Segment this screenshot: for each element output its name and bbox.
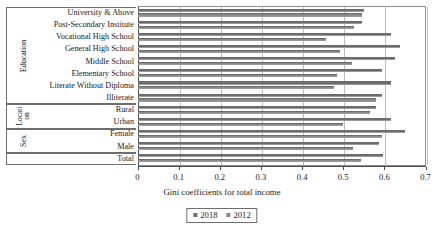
category-label: Female <box>28 128 136 140</box>
bar-row <box>138 43 426 55</box>
category-label: University & Above <box>28 7 136 19</box>
legend-label-2018: 2018 <box>200 210 217 220</box>
category-label: Rural <box>28 104 136 116</box>
bar-2018 <box>138 154 384 157</box>
x-tick-label: 0.1 <box>173 172 184 182</box>
x-tick-label: 0.5 <box>338 172 349 182</box>
bar-row <box>138 104 426 116</box>
bar-2012 <box>138 50 340 53</box>
category-label: Literate Without Diploma <box>28 80 136 92</box>
bar-2012 <box>138 123 344 126</box>
bar-row <box>138 92 426 104</box>
legend-item-2012[interactable]: 2012 <box>227 210 251 220</box>
category-label: Illiterate <box>28 92 136 104</box>
bar-row <box>138 128 426 140</box>
gridline-0.7 <box>427 7 428 165</box>
category-label: Middle School <box>28 56 136 68</box>
bar-2018 <box>138 94 382 97</box>
category-label: Total <box>28 153 136 165</box>
x-tick-label: 0.3 <box>256 172 267 182</box>
bar-2018 <box>138 118 391 121</box>
category-label: Elementary School <box>28 68 136 80</box>
x-tick-label: 0.6 <box>379 172 390 182</box>
bar-2012 <box>138 38 326 41</box>
bar-2018 <box>138 57 395 60</box>
x-tick <box>302 167 303 170</box>
bar-rows <box>138 7 426 165</box>
bar-row <box>138 80 426 92</box>
bar-2012 <box>138 159 361 162</box>
x-tick-label: 0.7 <box>420 172 431 182</box>
bar-row <box>138 56 426 68</box>
group-title: Sex <box>19 135 28 147</box>
bar-2012 <box>138 13 363 16</box>
bar-2012 <box>138 98 377 101</box>
bar-2018 <box>138 81 392 84</box>
bar-2012 <box>138 62 352 65</box>
legend-swatch-2018-icon <box>193 213 197 217</box>
category-axis-labels: University & AbovePost-Secondary Institu… <box>28 7 136 165</box>
bar-2018 <box>138 69 382 72</box>
chart-legend: 2018 2012 <box>186 208 257 223</box>
legend-swatch-2012-icon <box>227 213 231 217</box>
bar-2018 <box>138 45 400 48</box>
x-tick-label: 0 <box>135 172 139 182</box>
bar-2018 <box>138 130 405 133</box>
bar-row <box>138 116 426 128</box>
category-label: Post-Secondary Institute <box>28 19 136 31</box>
x-tick <box>261 167 262 170</box>
group-title: Education <box>19 39 28 71</box>
x-tick <box>138 167 139 170</box>
bar-2012 <box>138 74 338 77</box>
bar-2018 <box>138 33 392 36</box>
bar-2012 <box>138 147 354 150</box>
bar-2012 <box>138 26 354 29</box>
bar-row <box>138 68 426 80</box>
bar-row <box>138 31 426 43</box>
bar-2018 <box>138 142 380 145</box>
bar-2012 <box>138 111 370 114</box>
legend-label-2012: 2012 <box>234 210 251 220</box>
bar-2018 <box>138 21 363 24</box>
bar-2012 <box>138 135 382 138</box>
bar-row <box>138 153 426 165</box>
bar-row <box>138 7 426 19</box>
bar-2018 <box>138 106 377 109</box>
bar-2012 <box>138 86 335 89</box>
x-tick <box>220 167 221 170</box>
bar-row <box>138 19 426 31</box>
category-label: Urban <box>28 116 136 128</box>
legend-item-2018[interactable]: 2018 <box>193 210 217 220</box>
x-tick <box>343 167 344 170</box>
category-label: General High School <box>28 43 136 55</box>
bar-2018 <box>138 9 364 12</box>
x-tick <box>179 167 180 170</box>
x-tick <box>426 167 427 170</box>
x-axis-title: Gini coefficients for total income <box>0 187 444 197</box>
category-label: Vocational High School <box>28 31 136 43</box>
gini-coefficient-bar-chart: EducationLocati onSex University & Above… <box>0 0 444 235</box>
x-tick-label: 0.4 <box>297 172 308 182</box>
x-tick <box>384 167 385 170</box>
x-tick-label: 0.2 <box>214 172 225 182</box>
category-label: Male <box>28 141 136 153</box>
bar-row <box>138 141 426 153</box>
